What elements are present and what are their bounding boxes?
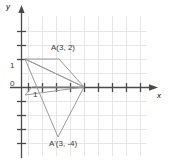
x-tick-label-1: 1 (33, 91, 37, 99)
y-tick-label-1: 1 (10, 62, 14, 70)
x-axis-label: x (157, 92, 161, 100)
coordinate-plane-figure: y x 1 0 1 A(3, 2) A'(3, -4) (0, 0, 169, 163)
point-a-prime-label: A'(3, -4) (49, 140, 77, 148)
plot-canvas (0, 0, 169, 163)
y-axis (17, 5, 26, 158)
y-axis-label: y (6, 3, 10, 11)
point-a-label: A(3, 2) (51, 44, 75, 52)
origin-tick-label: 0 (10, 80, 14, 88)
